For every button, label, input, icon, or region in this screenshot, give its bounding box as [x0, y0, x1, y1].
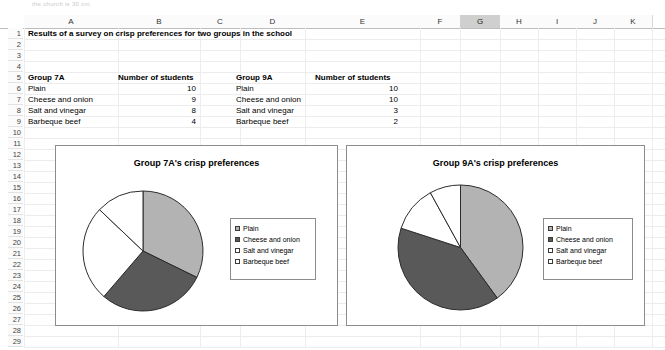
legend-label: Cheese and onion — [556, 234, 613, 245]
cell-e8[interactable]: 3 — [315, 105, 398, 116]
row-header-15[interactable]: 15 — [8, 182, 23, 193]
legend-item[interactable]: Barbeque beef — [235, 256, 311, 267]
grid-line — [24, 336, 665, 337]
column-header-f[interactable]: F — [420, 15, 461, 28]
row-header-6[interactable]: 6 — [8, 83, 23, 94]
row-header-1[interactable]: 1 — [8, 28, 23, 39]
legend-label: Plain — [556, 223, 572, 234]
column-header-b[interactable]: B — [118, 15, 201, 28]
column-header-d[interactable]: D — [240, 15, 306, 28]
row-header-4[interactable]: 4 — [8, 61, 23, 72]
column-header-j[interactable]: J — [576, 15, 615, 28]
legend-swatch-icon — [235, 259, 240, 264]
row-header-12[interactable]: 12 — [8, 149, 23, 160]
chart-title: Group 9A's crisp preferences — [347, 158, 644, 168]
legend-label: Barbeque beef — [556, 256, 602, 267]
legend-swatch-icon — [548, 237, 553, 242]
column-header-e[interactable]: E — [305, 15, 421, 28]
cell-b6[interactable]: 10 — [118, 83, 196, 94]
legend-label: Plain — [243, 223, 259, 234]
grid-line — [24, 50, 665, 51]
legend-swatch-icon — [235, 248, 240, 253]
cell-b9[interactable]: 4 — [118, 116, 196, 127]
chart-group-9a[interactable]: Group 9A's crisp preferences PlainCheese… — [346, 145, 645, 326]
column-header-h[interactable]: H — [500, 15, 539, 28]
cell-d7[interactable]: Cheese and onion — [236, 94, 324, 105]
grid-line — [24, 61, 665, 62]
pie-chart[interactable] — [82, 190, 204, 312]
legend-item[interactable]: Barbeque beef — [548, 256, 628, 267]
row-header-9[interactable]: 9 — [8, 116, 23, 127]
row-header-19[interactable]: 19 — [8, 226, 23, 237]
cell-a7[interactable]: Cheese and onion — [28, 94, 116, 105]
row-header-28[interactable]: 28 — [8, 325, 23, 336]
cell-e9[interactable]: 2 — [315, 116, 398, 127]
column-separator — [652, 28, 653, 347]
legend-item[interactable]: Plain — [235, 223, 311, 234]
cell-a5[interactable]: Group 7A — [28, 72, 116, 83]
chart-legend[interactable]: PlainCheese and onionSalt and vinegarBar… — [543, 218, 633, 280]
column-header-a[interactable]: A — [24, 15, 119, 28]
row-header-8[interactable]: 8 — [8, 105, 23, 116]
row-header-14[interactable]: 14 — [8, 171, 23, 182]
row-header-17[interactable]: 17 — [8, 204, 23, 215]
legend-item[interactable]: Cheese and onion — [548, 234, 628, 245]
grid-line — [24, 39, 665, 40]
cell-a6[interactable]: Plain — [28, 83, 116, 94]
row-header-24[interactable]: 24 — [8, 281, 23, 292]
row-header-27[interactable]: 27 — [8, 314, 23, 325]
row-header-7[interactable]: 7 — [8, 94, 23, 105]
cell-e7[interactable]: 10 — [315, 94, 398, 105]
row-header-20[interactable]: 20 — [8, 237, 23, 248]
legend-item[interactable]: Plain — [548, 223, 628, 234]
top-clipped-text: the church is 30 cm. — [32, 0, 172, 8]
row-header-13[interactable]: 13 — [8, 160, 23, 171]
legend-swatch-icon — [548, 226, 553, 231]
legend-item[interactable]: Salt and vinegar — [548, 245, 628, 256]
column-header-c[interactable]: C — [200, 15, 241, 28]
legend-label: Salt and vinegar — [556, 245, 607, 256]
legend-label: Cheese and onion — [243, 234, 300, 245]
chart-group-7a[interactable]: Group 7A's crisp preferences PlainCheese… — [55, 145, 338, 326]
row-header-10[interactable]: 10 — [8, 127, 23, 138]
legend-item[interactable]: Salt and vinegar — [235, 245, 311, 256]
chart-title: Group 7A's crisp preferences — [56, 158, 337, 168]
cell-e5[interactable]: Number of students — [315, 72, 415, 83]
cell-a8[interactable]: Salt and vinegar — [28, 105, 116, 116]
cell-d8[interactable]: Salt and vinegar — [236, 105, 324, 116]
row-header-5[interactable]: 5 — [8, 72, 23, 83]
cell-b8[interactable]: 8 — [118, 105, 196, 116]
row-header-26[interactable]: 26 — [8, 303, 23, 314]
cell-a1[interactable]: Results of a survey on crisp preferences… — [28, 28, 428, 39]
grid-line — [24, 127, 665, 128]
column-header-g[interactable]: G — [460, 15, 501, 28]
row-header-3[interactable]: 3 — [8, 50, 23, 61]
chart-legend[interactable]: PlainCheese and onionSalt and vinegarBar… — [230, 218, 316, 280]
row-header-23[interactable]: 23 — [8, 270, 23, 281]
row-header-21[interactable]: 21 — [8, 248, 23, 259]
row-header-22[interactable]: 22 — [8, 259, 23, 270]
cell-d9[interactable]: Barbeque beef — [236, 116, 324, 127]
row-header-11[interactable]: 11 — [8, 138, 23, 149]
legend-label: Barbeque beef — [243, 256, 289, 267]
column-header-k[interactable]: K — [614, 15, 653, 28]
column-separator — [24, 28, 25, 347]
legend-item[interactable]: Cheese and onion — [235, 234, 311, 245]
legend-swatch-icon — [548, 248, 553, 253]
cell-d5[interactable]: Group 9A — [236, 72, 324, 83]
pie-chart[interactable] — [397, 184, 524, 311]
cell-a9[interactable]: Barbeque beef — [28, 116, 116, 127]
column-header-i[interactable]: I — [538, 15, 577, 28]
row-header-25[interactable]: 25 — [8, 292, 23, 303]
legend-label: Salt and vinegar — [243, 245, 294, 256]
row-header-16[interactable]: 16 — [8, 193, 23, 204]
cell-b5[interactable]: Number of students — [118, 72, 218, 83]
row-header-18[interactable]: 18 — [8, 215, 23, 226]
row-header-2[interactable]: 2 — [8, 39, 23, 50]
grid-line — [24, 138, 665, 139]
cell-b7[interactable]: 9 — [118, 94, 196, 105]
cell-d6[interactable]: Plain — [236, 83, 324, 94]
row-header-29[interactable]: 29 — [8, 336, 23, 347]
cell-e6[interactable]: 10 — [315, 83, 398, 94]
column-header-row[interactable]: ABCDEFGHIJK — [0, 15, 665, 29]
